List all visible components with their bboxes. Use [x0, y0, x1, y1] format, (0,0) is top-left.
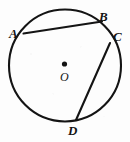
center-point-dot [62, 61, 67, 66]
circle-geometry-diagram: A B C D O [0, 0, 130, 142]
chord-cd [76, 43, 110, 120]
center-label-o: O [60, 71, 69, 83]
vertex-label-b: B [99, 10, 108, 23]
vertex-label-c: C [113, 30, 122, 43]
chord-ab [24, 22, 103, 34]
vertex-label-d: D [68, 124, 77, 137]
vertex-label-a: A [9, 27, 18, 40]
